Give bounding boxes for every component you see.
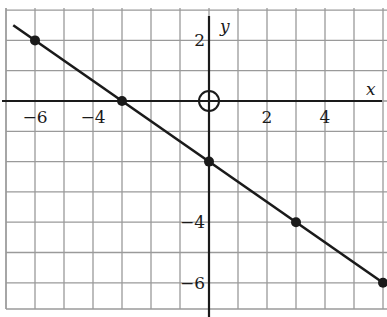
- y-tick-label: −4: [180, 212, 205, 232]
- data-point: [117, 96, 127, 106]
- data-point: [30, 35, 40, 45]
- x-axis-label: x: [366, 79, 376, 99]
- x-tick-label: 2: [262, 107, 273, 127]
- data-point: [204, 157, 214, 167]
- y-tick-label: −6: [180, 273, 205, 293]
- data-series: [13, 25, 387, 288]
- grid-lines: [6, 8, 387, 309]
- x-tick-label: −4: [80, 107, 105, 127]
- x-tick-label: 4: [320, 107, 331, 127]
- data-point: [291, 217, 301, 227]
- x-tick-label: −6: [22, 107, 47, 127]
- y-axis-label: y: [219, 16, 230, 36]
- coordinate-plane: −6−4242−4−6 x y: [0, 0, 387, 317]
- plotted-line: [13, 25, 383, 283]
- y-tick-label: 2: [194, 30, 205, 50]
